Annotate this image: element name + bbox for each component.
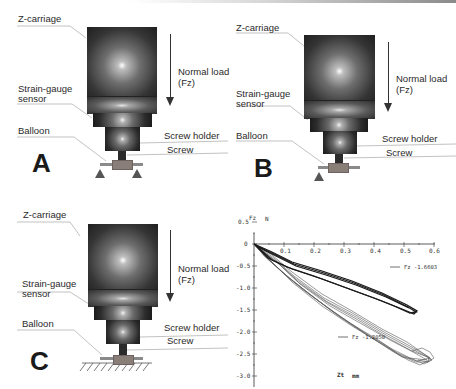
y-axis-label: Fz bbox=[249, 215, 256, 221]
support-left-icon bbox=[95, 169, 105, 178]
normal-load-arrowhead-icon bbox=[166, 293, 174, 302]
strain-gauge-sensor-label: sensor bbox=[18, 94, 47, 104]
panel-c: Z-carriage Normal load (Fz) Strain-gauge… bbox=[0, 195, 228, 389]
panel-letter-c: C bbox=[30, 348, 49, 374]
z-carriage-label: Z-carriage bbox=[23, 210, 66, 220]
normal-load-fz-label: (Fz) bbox=[396, 85, 413, 95]
screw-holder-label: Screw holder bbox=[164, 131, 219, 141]
z-carriage-block bbox=[304, 35, 375, 101]
x-axis-label: Zt bbox=[337, 372, 344, 378]
chart-canvas bbox=[232, 210, 456, 389]
screw-label: Screw bbox=[167, 145, 193, 155]
x-axis-unit: mm bbox=[352, 373, 359, 379]
balloon-label: Balloon bbox=[236, 131, 268, 141]
y-tick-label: 0 bbox=[244, 241, 248, 247]
z-carriage-label: Z-carriage bbox=[236, 23, 279, 33]
normal-load-arrowhead-icon bbox=[166, 97, 174, 106]
y-tick-label: -1.0 bbox=[236, 285, 250, 291]
y-tick-label: -2.0 bbox=[236, 329, 250, 335]
support-single-icon bbox=[314, 172, 324, 181]
y-tick-label: -3.0 bbox=[236, 373, 250, 379]
screw-holder bbox=[323, 131, 357, 154]
z-carriage-label: Z-carriage bbox=[18, 14, 61, 24]
y-tick-label: -1.5 bbox=[236, 307, 250, 313]
x-tick-label: 0.3 bbox=[340, 248, 351, 254]
y-axis-unit: N bbox=[265, 216, 269, 222]
force-displacement-chart: 0.5 0 -0.5 -1.0 -1.5 -2.0 -2.5 -3.0 Fz N… bbox=[232, 210, 456, 389]
strain-gauge-sensor-band bbox=[88, 289, 158, 307]
normal-load-fz-label: (Fz) bbox=[178, 275, 195, 285]
y-tick-label: 0.5 bbox=[238, 219, 249, 225]
series-fz-1-6603 bbox=[254, 244, 417, 314]
panel-letter-b: B bbox=[254, 155, 273, 181]
screw-holder-label: Screw holder bbox=[164, 323, 219, 333]
normal-load-label: Normal load bbox=[178, 67, 229, 77]
normal-load-arrowhead-icon bbox=[384, 103, 392, 112]
balloon-label: Balloon bbox=[18, 126, 50, 136]
strain-gauge-sensor-label: sensor bbox=[236, 99, 265, 109]
y-tick-label: -2.5 bbox=[236, 351, 250, 357]
support-right-icon bbox=[132, 169, 142, 178]
screw-holder-label: Screw holder bbox=[382, 134, 437, 144]
z-carriage-block bbox=[88, 224, 158, 290]
y-tick-label: -0.5 bbox=[236, 263, 250, 269]
normal-load-arrow bbox=[170, 34, 171, 98]
z-carriage-block bbox=[87, 27, 157, 97]
screw-label: Screw bbox=[386, 148, 412, 158]
normal-load-fz-label: (Fz) bbox=[178, 78, 195, 88]
screw-holder bbox=[105, 127, 140, 151]
x-tick-label: 0.6 bbox=[429, 248, 440, 254]
legend-label-1: Fz -1.6603 bbox=[404, 264, 437, 270]
x-tick-label: 0.2 bbox=[310, 248, 321, 254]
x-tick-label: 0.5 bbox=[400, 248, 411, 254]
x-tick-label: 0.4 bbox=[370, 248, 381, 254]
normal-load-arrow bbox=[388, 42, 389, 104]
legend-label-2: Fz -1.2050 bbox=[352, 334, 385, 340]
panel-b: Z-carriage Normal load (Fz) Strain-gauge… bbox=[228, 0, 456, 195]
sensor-step bbox=[94, 306, 152, 320]
balloon bbox=[113, 355, 134, 365]
normal-load-label: Normal load bbox=[396, 74, 447, 84]
normal-load-label: Normal load bbox=[178, 264, 229, 274]
panel-letter-a: A bbox=[32, 150, 51, 176]
balloon bbox=[328, 163, 349, 173]
screw-holder bbox=[106, 320, 140, 344]
screw-label: Screw bbox=[167, 336, 193, 346]
strain-gauge-sensor-band bbox=[304, 100, 375, 119]
balloon bbox=[112, 160, 133, 170]
x-tick-label: 0.1 bbox=[280, 248, 291, 254]
strain-gauge-sensor-band bbox=[87, 96, 157, 114]
strain-gauge-sensor-label: sensor bbox=[22, 289, 51, 299]
balloon-label: Balloon bbox=[22, 319, 54, 329]
sensor-step bbox=[93, 113, 152, 127]
panel-a: Z-carriage Normal load (Fz) Strain-gauge… bbox=[0, 0, 228, 195]
normal-load-arrow bbox=[170, 230, 171, 294]
sensor-step bbox=[310, 118, 368, 132]
